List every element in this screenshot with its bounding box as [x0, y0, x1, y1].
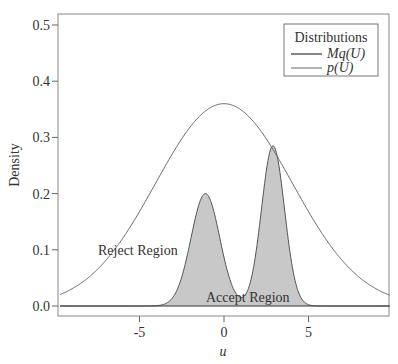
accept-region-fill: [60, 146, 390, 306]
plot-area: [60, 104, 390, 306]
x-tick-label: -5: [134, 325, 146, 340]
y-axis-label: Density: [7, 143, 22, 187]
x-tick-label: 0: [221, 325, 228, 340]
x-tick-label: 5: [305, 325, 312, 340]
reject-region-label: Reject Region: [98, 243, 178, 258]
legend: Distributions Mq(U) p(U): [284, 24, 378, 76]
y-tick-label: 0.3: [33, 130, 51, 145]
y-tick-label: 0.1: [33, 243, 51, 258]
accept-region-label: Accept Region: [206, 290, 290, 305]
legend-title: Distributions: [294, 30, 367, 45]
y-tick-label: 0.4: [33, 74, 51, 89]
y-tick-label: 0.2: [33, 187, 51, 202]
y-tick-label: 0.5: [33, 18, 51, 33]
x-axis-label: u: [220, 344, 227, 359]
y-tick-label: 0.0: [33, 299, 51, 314]
legend-label-p: p(U): [326, 60, 354, 76]
rejection-sampling-chart: 0.00.10.20.30.40.5-505 Distributions Mq(…: [0, 0, 398, 364]
